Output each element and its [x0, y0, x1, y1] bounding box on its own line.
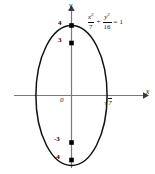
- equation-term-2: y2 16: [103, 13, 112, 31]
- y-tick-label-3: 3: [58, 37, 62, 44]
- x-axis-label: x: [146, 88, 149, 96]
- y-tick-label-4: 4: [58, 20, 62, 27]
- x-tick-label-sqrt7-value: 7: [108, 98, 113, 107]
- origin-label: 0: [60, 97, 64, 104]
- equation-term-1-exponent: 2: [91, 12, 94, 17]
- y-tick-label-neg4: -4: [54, 154, 60, 161]
- x-tick-label-sqrt7: √7: [104, 100, 112, 107]
- ellipse-plot: [0, 0, 155, 174]
- equation-term-1: x2 7: [87, 13, 95, 31]
- equation-term-1-numerator: x2: [87, 13, 95, 22]
- point-marker-y3: [69, 41, 74, 46]
- point-marker-y-neg3: [69, 140, 74, 145]
- equation-operator-plus: +: [97, 18, 101, 26]
- point-marker-y4: [69, 23, 74, 28]
- equation-term-2-exponent: 2: [107, 12, 110, 17]
- point-marker-y-neg4: [69, 158, 74, 163]
- equation-term-1-denominator: 7: [88, 22, 94, 32]
- equation-term-2-denominator: 16: [103, 22, 112, 32]
- ellipse-figure: y x 0 4 3 -3 -4 √7 x2 7 + y2 16 = 1: [0, 0, 155, 174]
- equation-equals-sign: =: [114, 18, 118, 26]
- ellipse-equation: x2 7 + y2 16 = 1: [86, 13, 123, 31]
- equation-right-hand-side: 1: [120, 18, 124, 26]
- y-axis-label: y: [69, 2, 72, 10]
- equation-term-2-numerator: y2: [103, 13, 111, 22]
- y-tick-label-neg3: -3: [54, 136, 60, 143]
